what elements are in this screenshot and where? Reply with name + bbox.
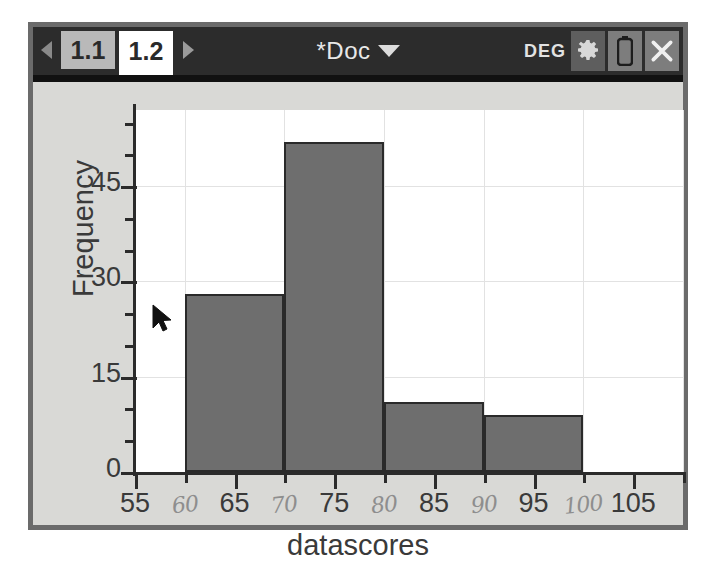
y-tick-minor	[125, 154, 136, 157]
histogram-bar[interactable]	[185, 294, 285, 472]
x-tick-label: 65	[210, 488, 260, 519]
histogram-bar[interactable]	[484, 415, 584, 472]
document-title: *Doc	[316, 37, 370, 65]
x-axis-title: datascores	[33, 529, 683, 562]
x-tick-minor	[583, 472, 586, 483]
x-tick-major	[334, 472, 337, 489]
y-tick-major	[121, 281, 137, 284]
plot-area[interactable]	[135, 110, 683, 472]
histogram-bar[interactable]	[384, 402, 484, 472]
x-tick-label: 85	[409, 488, 459, 519]
gridline-horizontal	[135, 186, 683, 187]
x-tick-minor	[484, 472, 487, 483]
chevron-down-icon[interactable]	[378, 45, 400, 57]
status-indicators: DEG	[524, 27, 679, 75]
x-tick-label-handwritten: 60	[161, 490, 209, 520]
tab-page-1-1[interactable]: 1.1	[61, 31, 115, 69]
gridline-vertical	[583, 110, 584, 472]
x-tick-major	[633, 472, 636, 489]
gridline-vertical	[683, 110, 684, 472]
mouse-pointer-icon	[151, 304, 173, 334]
gridline-horizontal	[135, 281, 683, 282]
x-tick-label: 95	[509, 488, 559, 519]
x-tick-minor	[683, 472, 686, 483]
y-tick-minor	[125, 123, 136, 126]
angle-mode-label: DEG	[524, 41, 566, 62]
x-tick-label-handwritten: 100	[559, 490, 607, 520]
y-tick-minor	[125, 313, 136, 316]
y-axis-line	[133, 104, 136, 476]
y-tick-label: 15	[61, 358, 121, 389]
y-tick-major	[121, 186, 137, 189]
x-tick-major	[235, 472, 238, 489]
calculator-screenshot: 1.1 1.2 *Doc DEG	[0, 0, 717, 563]
y-tick-minor	[125, 218, 136, 221]
status-bar: 1.1 1.2 *Doc DEG	[33, 27, 683, 75]
header-divider	[33, 75, 683, 82]
histogram-bar[interactable]	[284, 142, 384, 472]
histogram-page[interactable]: 0153045 556065707580859095100105 Frequen…	[33, 82, 683, 525]
chevron-left-icon[interactable]	[41, 41, 52, 59]
y-tick-major	[121, 377, 137, 380]
x-tick-label-handwritten: 70	[260, 490, 308, 520]
x-tick-major	[135, 472, 138, 489]
x-tick-minor	[284, 472, 287, 483]
x-tick-label-handwritten: 90	[460, 490, 508, 520]
y-tick-minor	[125, 250, 136, 253]
device-frame: 1.1 1.2 *Doc DEG	[28, 22, 688, 530]
x-tick-label: 105	[608, 488, 658, 519]
y-tick-minor	[125, 345, 136, 348]
x-tick-minor	[185, 472, 188, 483]
x-tick-label: 75	[309, 488, 359, 519]
x-axis-line	[133, 472, 685, 475]
y-tick-minor	[125, 440, 136, 443]
y-tick-label: 0	[61, 453, 121, 484]
chevron-right-icon[interactable]	[183, 41, 194, 59]
close-icon[interactable]	[645, 31, 679, 71]
gear-icon[interactable]	[571, 31, 605, 71]
x-tick-label: 55	[110, 488, 160, 519]
y-tick-minor	[125, 408, 136, 411]
y-axis-title: Frequency	[67, 119, 100, 339]
x-tick-minor	[384, 472, 387, 483]
battery-icon[interactable]	[608, 31, 642, 71]
x-tick-major	[434, 472, 437, 489]
x-tick-major	[534, 472, 537, 489]
x-tick-label-handwritten: 80	[360, 490, 408, 520]
